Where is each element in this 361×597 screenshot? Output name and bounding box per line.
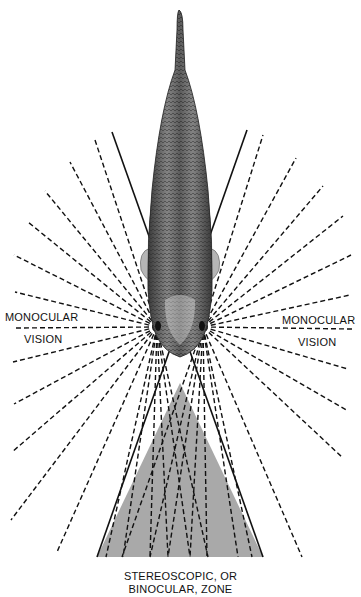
vision-ray [203,216,343,327]
right-vision-label: VISION [298,336,337,349]
binocular-label-line1: STEREOSCOPIC, OR [0,570,361,583]
vision-ray [203,186,323,327]
right-eye-icon [199,321,205,331]
vision-ray [70,162,157,327]
left-monocular-label: MONOCULAR [5,311,78,324]
vision-ray [203,158,296,327]
fish-illustration [140,10,219,357]
right-monocular-label: MONOCULAR [282,314,355,327]
fish-vision-diagram [0,0,361,597]
left-vision-label: VISION [24,333,63,346]
binocular-label-line2: BINOCULAR, ZONE [0,583,361,596]
left-eye-icon [155,321,161,331]
vision-ray [203,327,352,329]
vision-ray [14,327,157,328]
binocular-zone-label: STEREOSCOPIC, OR BINOCULAR, ZONE [0,570,361,596]
